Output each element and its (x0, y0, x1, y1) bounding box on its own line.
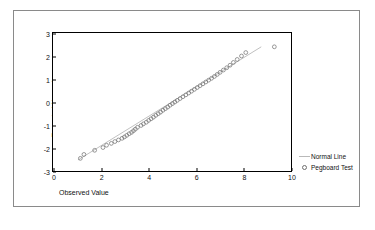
data-point-marker (113, 140, 117, 144)
x-axis-tick (196, 168, 197, 171)
legend-item-normal-line[interactable]: Normal Line (298, 151, 360, 162)
x-axis-tick-label: 2 (100, 174, 104, 181)
scatter-plot-canvas (53, 33, 291, 171)
y-axis-tick-label: 1 (46, 77, 50, 84)
x-axis-tick-label: 8 (242, 174, 246, 181)
y-axis-tick (53, 172, 56, 173)
data-point-marker (235, 58, 239, 62)
y-axis-tick-label: -2 (44, 146, 50, 153)
y-axis-tick-label: 0 (46, 100, 50, 107)
y-axis-tick (53, 80, 56, 81)
legend-item-pegboard-test[interactable]: Pegboard Test (298, 162, 360, 173)
y-axis-tick (53, 57, 56, 58)
x-axis-tick (101, 168, 102, 171)
data-point-marker (109, 142, 113, 146)
legend-label-normal-line: Normal Line (311, 153, 346, 161)
y-axis-tick-label: 3 (46, 31, 50, 38)
plot-area: 3210-1-2-30246810 (52, 32, 292, 172)
data-point-marker (117, 138, 121, 142)
x-axis-tick-label: 10 (288, 174, 296, 181)
y-axis-tick (53, 149, 56, 150)
x-axis-tick (149, 168, 150, 171)
x-axis-tick (54, 168, 55, 171)
data-point-marker (272, 45, 276, 49)
chart-legend: Normal Line Pegboard Test (298, 151, 360, 173)
y-axis-tick (53, 126, 56, 127)
open-circle-swatch-icon (298, 165, 311, 170)
x-axis-tick-label: 4 (147, 174, 151, 181)
y-axis-tick-label: -3 (44, 169, 50, 176)
x-axis-tick-label: 6 (195, 174, 199, 181)
data-point-marker (101, 146, 105, 150)
y-axis-tick-label: 2 (46, 54, 50, 61)
x-axis-label: Observed Value (59, 189, 109, 196)
x-axis-tick-label: 0 (52, 174, 56, 181)
y-axis-tick (53, 103, 56, 104)
legend-label-pegboard-test: Pegboard Test (311, 164, 353, 172)
data-point-marker (82, 153, 86, 157)
y-axis-tick (53, 34, 56, 35)
line-swatch-icon (298, 156, 311, 157)
data-point-marker (244, 51, 248, 55)
data-point-marker (240, 54, 244, 58)
x-axis-tick (292, 168, 293, 171)
x-axis-tick (244, 168, 245, 171)
y-axis-tick-label: -1 (44, 123, 50, 130)
chart-figure-border: Expected Normal Observed Value 3210-1-2-… (13, 10, 360, 207)
data-point-marker (105, 143, 109, 147)
